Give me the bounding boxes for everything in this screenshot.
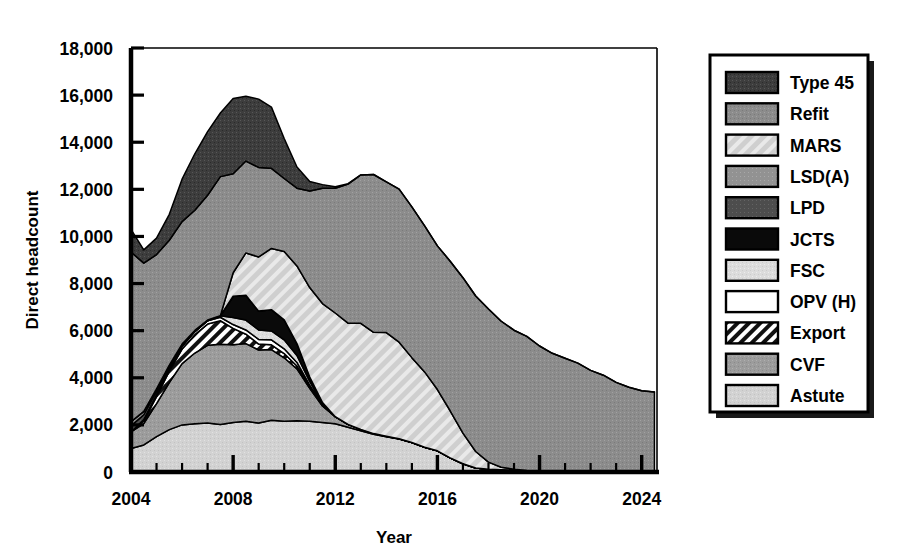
y-tick-label: 2,000 — [69, 415, 113, 435]
area-bands — [131, 96, 654, 472]
legend-swatch-lsd-a[interactable] — [726, 166, 778, 187]
x-tick-label: 2004 — [112, 489, 151, 509]
legend-swatch-export[interactable] — [726, 322, 778, 343]
legend-swatch-fsc[interactable] — [726, 260, 778, 281]
y-tick-label: 14,000 — [59, 133, 113, 153]
legend-swatch-mars[interactable] — [726, 135, 778, 156]
legend-swatch-astute[interactable] — [726, 385, 778, 406]
y-axis-title: Direct headcount — [23, 190, 42, 329]
chart-figure: 02,0004,0006,0008,00010,00012,00014,0001… — [0, 0, 900, 560]
y-tick-label: 8,000 — [69, 274, 113, 294]
legend-label-refit[interactable]: Refit — [790, 104, 829, 124]
legend-swatch-refit[interactable] — [726, 103, 778, 124]
stacked-area-chart: 02,0004,0006,0008,00010,00012,00014,0001… — [0, 0, 900, 560]
legend-swatch-jcts[interactable] — [726, 229, 778, 250]
legend: Type 45RefitMARSLSD(A)LPDJCTSFSCOPV (H)E… — [710, 55, 874, 418]
legend-swatch-cvf[interactable] — [726, 354, 778, 375]
x-axis-tick-labels: 200420082012201620202024 — [112, 489, 662, 509]
legend-label-cvf[interactable]: CVF — [790, 355, 825, 375]
y-tick-label: 6,000 — [69, 321, 113, 341]
legend-swatch-type-45[interactable] — [726, 72, 778, 93]
y-tick-label: 10,000 — [59, 227, 113, 247]
legend-label-type-45[interactable]: Type 45 — [790, 73, 854, 93]
legend-label-mars[interactable]: MARS — [790, 136, 842, 156]
x-axis-title: Year — [376, 528, 412, 547]
y-tick-label: 12,000 — [59, 180, 113, 200]
y-tick-label: 4,000 — [69, 368, 113, 388]
x-tick-label: 2020 — [520, 489, 559, 509]
legend-label-lsd-a[interactable]: LSD(A) — [790, 167, 849, 187]
y-tick-label: 18,000 — [59, 39, 113, 59]
x-tick-label: 2024 — [622, 489, 661, 509]
y-tick-label: 0 — [103, 463, 113, 483]
legend-swatch-lpd[interactable] — [726, 197, 778, 218]
legend-label-fsc[interactable]: FSC — [790, 261, 825, 281]
legend-label-jcts[interactable]: JCTS — [790, 230, 835, 250]
legend-label-opv-h[interactable]: OPV (H) — [790, 292, 856, 312]
x-tick-label: 2008 — [214, 489, 253, 509]
y-tick-label: 16,000 — [59, 86, 113, 106]
legend-label-astute[interactable]: Astute — [790, 386, 845, 406]
x-tick-label: 2016 — [418, 489, 457, 509]
legend-label-lpd[interactable]: LPD — [790, 198, 825, 218]
legend-swatch-opv-h[interactable] — [726, 291, 778, 312]
y-axis-tick-labels: 02,0004,0006,0008,00010,00012,00014,0001… — [59, 39, 113, 483]
x-tick-label: 2012 — [316, 489, 355, 509]
legend-label-export[interactable]: Export — [790, 323, 846, 343]
